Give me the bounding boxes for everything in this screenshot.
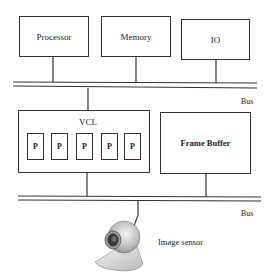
- lower-bus-label: Bus: [241, 209, 253, 218]
- processing-element: P: [101, 133, 118, 160]
- processor-box: Processor: [19, 16, 89, 57]
- frame-buffer-label: Frame Buffer: [181, 138, 231, 148]
- vcl-label: VCL: [79, 117, 97, 127]
- processing-element: P: [27, 133, 44, 160]
- memory-box: Memory: [101, 16, 171, 57]
- image-sensor-label: Image sensor: [158, 237, 203, 247]
- io-label: IO: [211, 35, 221, 45]
- io-box: IO: [181, 19, 250, 60]
- upper-bus-label: Bus: [241, 97, 253, 106]
- processing-element: P: [76, 133, 93, 160]
- processing-element: P: [124, 133, 141, 160]
- upper-bus: [13, 82, 257, 88]
- frame-buffer-box: Frame Buffer: [160, 112, 251, 174]
- lower-bus: [18, 196, 261, 201]
- processor-label: Processor: [37, 32, 72, 42]
- processing-element: P: [51, 133, 68, 160]
- vcl-box: VCL P P P P P: [18, 110, 150, 173]
- webcam-icon: [95, 221, 143, 271]
- memory-label: Memory: [121, 32, 152, 42]
- image-sensor-cable: [134, 201, 138, 226]
